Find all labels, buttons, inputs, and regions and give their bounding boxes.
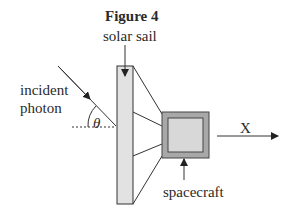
spacecraft-label: spacecraft (163, 184, 224, 200)
incident-label-line1: incident (20, 82, 68, 98)
incident-label-line2: photon (20, 100, 62, 116)
solar-sail-label: solar sail (103, 28, 157, 44)
angle-theta-label: θ (93, 115, 100, 131)
direction-x-label: X (240, 120, 251, 136)
solar-sail-panel (117, 66, 133, 204)
figure-4-diagram: Figure 4 solar sail incident photon θ X … (0, 0, 294, 213)
figure-title: Figure 4 (105, 8, 158, 24)
sail-rigging-lines (133, 66, 162, 204)
spacecraft-inner-box (168, 118, 203, 152)
